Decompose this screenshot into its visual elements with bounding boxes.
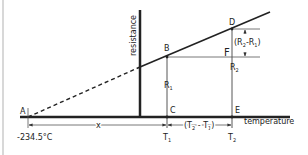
point-c-dot xyxy=(166,116,169,119)
resistance-temperature-diagram: resistance temperature A B C D E F R1 R2… xyxy=(0,0,308,155)
point-d-label: D xyxy=(229,18,235,27)
resistance-axis-label: resistance xyxy=(129,15,138,56)
point-c-label: C xyxy=(170,106,176,115)
r-diff-label: (R2-R1) xyxy=(234,38,261,48)
point-a-label: A xyxy=(20,107,26,116)
dt-dimension-label: (T2 - T1) xyxy=(184,121,214,131)
x-dimension-label: x xyxy=(96,121,101,130)
point-f-label: F xyxy=(224,47,230,58)
point-d-dot xyxy=(231,28,234,31)
point-e-dot xyxy=(231,116,234,119)
r2-label: R2 xyxy=(230,63,239,73)
t2-label: T2 xyxy=(227,133,236,143)
temperature-axis-label: temperature xyxy=(244,117,294,126)
point-e-label: E xyxy=(235,106,240,115)
r1-label: R1 xyxy=(164,81,173,91)
point-b-dot xyxy=(166,56,169,59)
t1-label: T1 xyxy=(162,133,171,143)
point-b-label: B xyxy=(164,44,170,53)
extrapolation-line xyxy=(28,67,140,117)
absolute-zero-label: -234.5°C xyxy=(17,133,53,142)
